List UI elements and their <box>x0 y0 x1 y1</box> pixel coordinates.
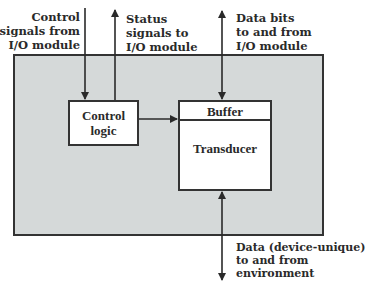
data-bits-line-1: Data bits <box>236 11 312 25</box>
status-signals-line-3: I/O module <box>126 40 198 54</box>
environment-data-line-3: environment <box>236 267 366 280</box>
data-bits-line-3: I/O module <box>236 39 312 53</box>
control-signals-line-2: signals from <box>0 24 80 38</box>
status-signals-line-1: Status <box>126 12 198 26</box>
control-signals-line-3: I/O module <box>0 38 80 52</box>
control-signals-label: Control signals from I/O module <box>0 10 80 52</box>
environment-data-line-2: to and from <box>236 254 366 267</box>
control-signals-line-1: Control <box>0 10 80 24</box>
environment-data-label: Data (device-unique) to and from environ… <box>236 241 366 280</box>
data-bits-line-2: to and from <box>236 25 312 39</box>
environment-data-line-1: Data (device-unique) <box>236 241 366 254</box>
data-bits-label: Data bits to and from I/O module <box>236 11 312 53</box>
status-signals-label: Status signals to I/O module <box>126 12 198 54</box>
status-signals-line-2: signals to <box>126 26 198 40</box>
